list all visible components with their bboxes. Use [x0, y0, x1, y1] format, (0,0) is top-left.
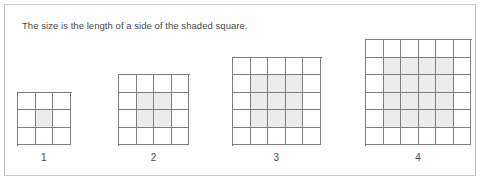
grid-2: [118, 74, 190, 146]
grid-cell: [268, 58, 286, 76]
grid-cell: [286, 128, 304, 146]
grid-cell: [154, 128, 172, 146]
grid-cell-shaded: [154, 93, 172, 111]
grid-cell: [172, 128, 190, 146]
grid-1: [17, 92, 72, 147]
grid-cell: [18, 93, 36, 111]
grid-cell: [454, 93, 472, 111]
figure-2: 2: [118, 0, 189, 168]
grid-cell: [366, 58, 384, 76]
grid-cell: [268, 128, 286, 146]
grid-cell: [384, 40, 402, 58]
grid-cell: [454, 75, 472, 93]
figure-4: 4: [365, 0, 471, 168]
grid-cell: [384, 128, 402, 146]
grid-cell-shaded: [384, 110, 402, 128]
grid-cell-shaded: [436, 110, 454, 128]
grid-cell-shaded: [137, 110, 155, 128]
grid-cell-shaded: [384, 75, 402, 93]
grid-cell-shaded: [154, 110, 172, 128]
grid-cell-shaded: [401, 75, 419, 93]
grid-cell: [233, 110, 251, 128]
grid-cell: [303, 110, 321, 128]
grid-cell: [119, 128, 137, 146]
grid-cell-shaded: [384, 58, 402, 76]
grid-cell-shaded: [401, 110, 419, 128]
grid-cell: [454, 58, 472, 76]
grid-cell-shaded: [286, 93, 304, 111]
grid-cell: [303, 58, 321, 76]
grid-cell-shaded: [419, 75, 437, 93]
figure-1: 1: [17, 0, 71, 168]
grid-cell: [172, 75, 190, 93]
grid-cell: [401, 40, 419, 58]
grid-cell-shaded: [268, 110, 286, 128]
grid-cell: [366, 75, 384, 93]
grid-4: [365, 39, 472, 146]
grid-cell-shaded: [384, 93, 402, 111]
grid-cell-shaded: [436, 58, 454, 76]
grid-cell: [53, 93, 71, 111]
grid-cell-shaded: [419, 110, 437, 128]
grid-cell-shaded: [401, 93, 419, 111]
grid-cell-shaded: [268, 75, 286, 93]
grid-cell-shaded: [436, 93, 454, 111]
grid-cell: [36, 93, 54, 111]
figure-label-3: 3: [232, 152, 321, 164]
grid-cell: [454, 128, 472, 146]
grid-cell: [454, 110, 472, 128]
grid-cell: [18, 110, 36, 128]
grid-cell: [18, 128, 36, 146]
grid-cell: [419, 128, 437, 146]
grid-cell-shaded: [419, 93, 437, 111]
grid-cell: [303, 128, 321, 146]
grid-cell-shaded: [137, 93, 155, 111]
grid-cell: [53, 110, 71, 128]
grid-cell: [401, 128, 419, 146]
grid-3: [232, 57, 322, 147]
grid-cell: [172, 110, 190, 128]
figure-label-4: 4: [365, 152, 471, 164]
grid-cell-shaded: [268, 93, 286, 111]
grid-cell: [366, 110, 384, 128]
grid-cell: [137, 75, 155, 93]
grid-cell-shaded: [419, 58, 437, 76]
grid-cell-shaded: [251, 93, 269, 111]
grid-cell: [233, 58, 251, 76]
grid-cell: [233, 75, 251, 93]
grid-cell: [172, 93, 190, 111]
grid-cell: [436, 40, 454, 58]
grid-cell: [119, 75, 137, 93]
grid-cell: [251, 58, 269, 76]
figure-row: 1234: [0, 0, 484, 168]
grid-cell-shaded: [401, 58, 419, 76]
grid-cell-shaded: [286, 75, 304, 93]
grid-cell: [286, 58, 304, 76]
figure-label-2: 2: [118, 152, 189, 164]
grid-cell: [366, 128, 384, 146]
grid-cell: [303, 75, 321, 93]
grid-cell: [303, 93, 321, 111]
grid-cell: [233, 93, 251, 111]
grid-cell: [454, 40, 472, 58]
grid-cell: [436, 128, 454, 146]
grid-cell-shaded: [251, 110, 269, 128]
grid-cell: [154, 75, 172, 93]
grid-cell: [137, 128, 155, 146]
grid-cell: [233, 128, 251, 146]
grid-cell-shaded: [251, 75, 269, 93]
grid-cell: [366, 93, 384, 111]
grid-cell: [119, 110, 137, 128]
grid-cell: [119, 93, 137, 111]
grid-cell: [366, 40, 384, 58]
grid-cell-shaded: [436, 75, 454, 93]
figure-label-1: 1: [17, 152, 71, 164]
grid-cell: [419, 40, 437, 58]
figure-3: 3: [232, 0, 321, 168]
grid-cell-shaded: [286, 110, 304, 128]
grid-cell: [53, 128, 71, 146]
grid-cell: [251, 128, 269, 146]
grid-cell-shaded: [36, 110, 54, 128]
grid-cell: [36, 128, 54, 146]
